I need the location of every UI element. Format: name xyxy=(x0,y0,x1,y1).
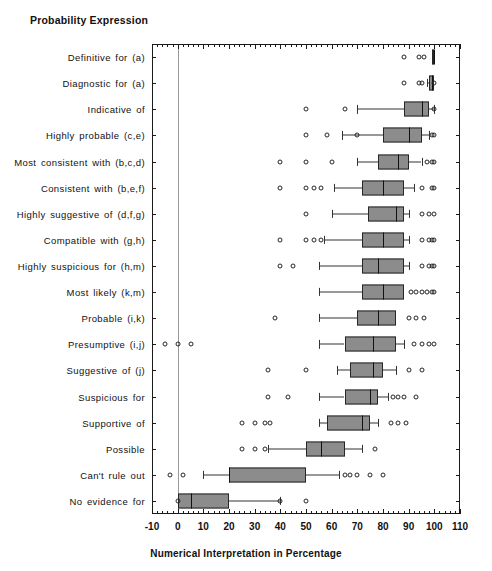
boxplot-whisker-high xyxy=(306,474,339,475)
x-axis-tick-top xyxy=(244,44,245,47)
x-axis-tick-top xyxy=(229,44,230,49)
y-axis-tick xyxy=(152,83,156,84)
boxplot-outlier-point xyxy=(286,394,291,399)
boxplot-whisker-cap-low xyxy=(319,340,320,348)
boxplot-median-line xyxy=(378,258,379,273)
x-axis-tick xyxy=(419,511,420,514)
boxplot-outlier-point xyxy=(162,342,167,347)
boxplot-outlier-point xyxy=(311,237,316,242)
boxplot-median-line xyxy=(422,102,423,117)
x-axis-tick xyxy=(342,511,343,514)
y-axis-tick xyxy=(152,423,156,424)
y-axis-tick xyxy=(152,475,156,476)
y-axis-tick-right xyxy=(456,135,460,136)
x-axis-tick-top xyxy=(398,44,399,47)
x-axis-tick-top xyxy=(347,44,348,47)
x-axis-tick-top xyxy=(357,44,358,49)
x-axis-tick xyxy=(398,511,399,514)
boxplot-outlier-point xyxy=(396,420,401,425)
boxplot-outlier-point xyxy=(414,316,419,321)
x-axis-tick-label: 40 xyxy=(275,521,286,532)
x-axis-tick-top xyxy=(460,44,461,49)
boxplot-outlier-point xyxy=(265,394,270,399)
x-axis-tick-label: 0 xyxy=(175,521,181,532)
boxplot-outlier-point xyxy=(347,472,352,477)
x-axis-tick xyxy=(173,511,174,514)
boxplot-box[interactable] xyxy=(229,467,306,482)
boxplot-whisker-low xyxy=(203,474,229,475)
x-axis-tick-top xyxy=(321,44,322,47)
x-axis-tick-label: 20 xyxy=(223,521,234,532)
boxplot-outlier-point xyxy=(291,263,296,268)
boxplot-outlier-point xyxy=(188,342,193,347)
boxplot-outlier-point xyxy=(401,394,406,399)
boxplot-box[interactable] xyxy=(306,441,345,456)
y-axis-tick-right xyxy=(456,162,460,163)
boxplot-whisker-cap-high xyxy=(339,471,340,479)
y-axis-tick xyxy=(152,344,156,345)
boxplot-outlier-point xyxy=(401,55,406,60)
boxplot-median-line xyxy=(396,206,397,221)
boxplot-box[interactable] xyxy=(362,258,403,273)
boxplot-whisker-cap-low xyxy=(427,79,428,87)
x-axis-tick xyxy=(193,511,194,514)
y-axis-tick-right xyxy=(456,57,460,58)
boxplot-box[interactable] xyxy=(404,102,430,117)
boxplot-outlier-point xyxy=(273,316,278,321)
boxplot-whisker-cap-high xyxy=(388,392,389,400)
boxplot-box[interactable] xyxy=(350,363,383,378)
x-axis-tick-top xyxy=(306,44,307,49)
x-axis-tick xyxy=(265,511,266,514)
boxplot-outlier-point xyxy=(406,368,411,373)
x-axis-tick xyxy=(393,511,394,514)
x-axis-tick xyxy=(291,511,292,514)
chart-title: Probability Expression xyxy=(30,14,148,26)
boxplot-whisker-low xyxy=(319,422,327,423)
boxplot-box[interactable] xyxy=(345,337,396,352)
boxplot-outlier-point xyxy=(319,237,324,242)
x-axis-tick xyxy=(383,509,384,514)
boxplot-outlier-point xyxy=(304,498,309,503)
boxplot-outlier-point xyxy=(252,446,257,451)
boxplot-outlier-point xyxy=(252,420,257,425)
x-axis-tick-top xyxy=(419,44,420,47)
x-axis-tick-top xyxy=(193,44,194,47)
x-axis-tick-top xyxy=(280,44,281,49)
boxplot-whisker-high xyxy=(378,396,388,397)
x-axis-tick-top xyxy=(255,44,256,49)
boxplot-box[interactable] xyxy=(345,389,378,404)
boxplot-whisker-cap-low xyxy=(357,157,358,165)
x-axis-tick-top xyxy=(383,44,384,49)
boxplot-outlier-point xyxy=(304,237,309,242)
boxplot-median-line xyxy=(409,128,410,143)
x-axis-tick-top xyxy=(450,44,451,47)
x-axis-tick xyxy=(208,511,209,514)
boxplot-outlier-point xyxy=(304,368,309,373)
boxplot-outlier-point xyxy=(432,211,437,216)
boxplot-box[interactable] xyxy=(327,415,371,430)
y-axis-tick xyxy=(152,370,156,371)
y-axis-category-label: Compatible with (g,h) xyxy=(44,234,145,245)
boxplot-outlier-point xyxy=(401,81,406,86)
boxplot-whisker-cap-low xyxy=(203,471,204,479)
boxplot-box[interactable] xyxy=(368,206,404,221)
boxplot-outlier-point xyxy=(404,420,409,425)
boxplot-box[interactable] xyxy=(357,311,396,326)
y-axis-tick xyxy=(152,240,156,241)
boxplot-outlier-point xyxy=(414,394,419,399)
boxplot-box[interactable] xyxy=(178,493,229,508)
boxplot-outlier-point xyxy=(278,263,283,268)
x-axis-tick-label: -10 xyxy=(145,521,159,532)
y-axis-tick xyxy=(152,449,156,450)
boxplot-whisker-high xyxy=(409,161,422,162)
boxplot-outlier-point xyxy=(304,185,309,190)
boxplot-box[interactable] xyxy=(378,154,409,169)
y-axis-tick xyxy=(152,292,156,293)
y-axis-category-label: Consistent with (b,e,f) xyxy=(41,182,145,193)
boxplot-box[interactable] xyxy=(383,128,422,143)
boxplot-whisker-cap-low xyxy=(332,210,333,218)
boxplot-median-line xyxy=(398,154,399,169)
boxplot-outlier-point xyxy=(304,211,309,216)
x-axis-tick-top xyxy=(188,44,189,47)
boxplot-whisker-high xyxy=(229,500,280,501)
